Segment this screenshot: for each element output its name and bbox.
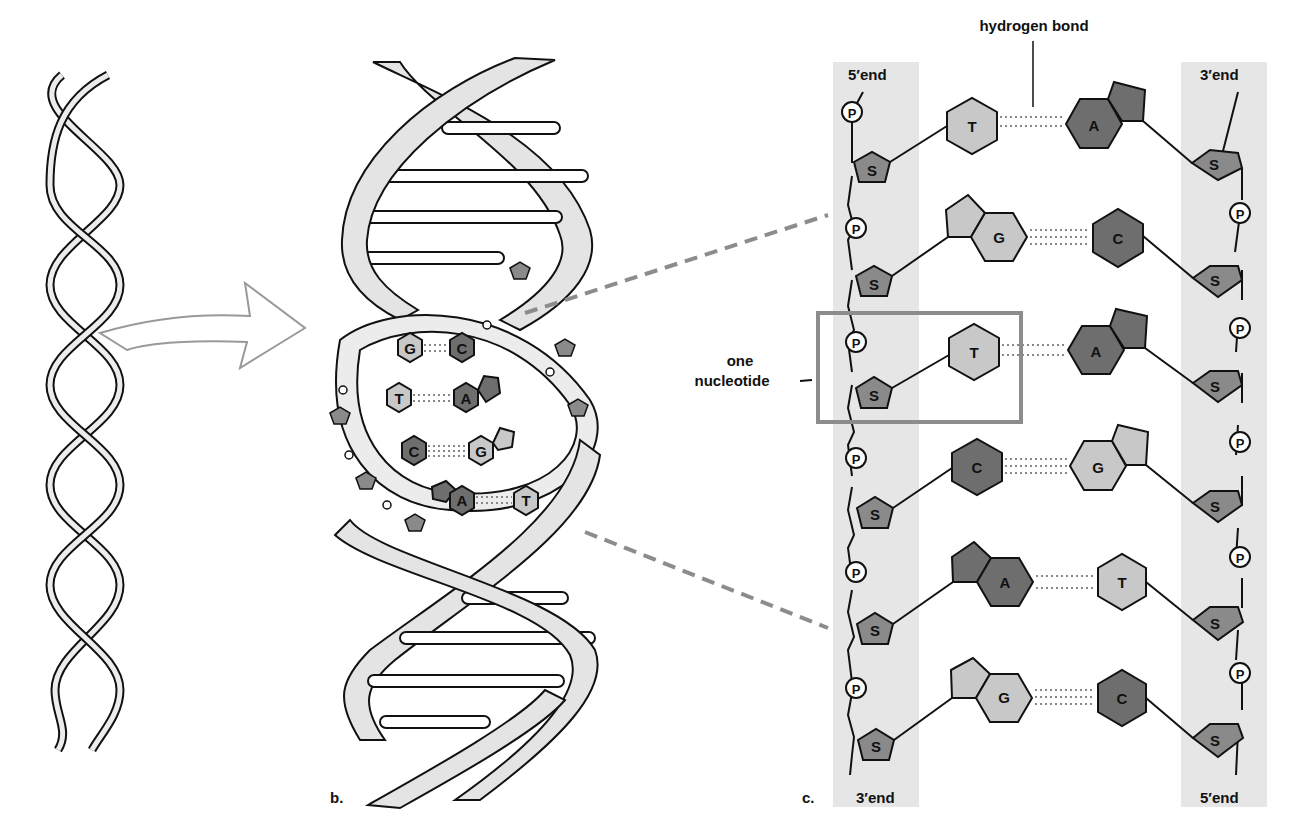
base-label: G bbox=[1092, 459, 1104, 476]
phosphate-group: P bbox=[842, 102, 862, 122]
svg-text:P: P bbox=[852, 682, 861, 697]
phosphate-group: P bbox=[846, 332, 866, 352]
sugar-label: S bbox=[1209, 156, 1219, 173]
phosphate-group: P bbox=[846, 562, 866, 582]
one-nucleotide-label-line1: one bbox=[727, 352, 754, 369]
base-label: C bbox=[409, 443, 420, 460]
svg-text:P: P bbox=[852, 566, 861, 581]
svg-text:P: P bbox=[852, 452, 861, 467]
svg-text:P: P bbox=[1236, 667, 1245, 682]
sugar-label: S bbox=[1210, 272, 1220, 289]
panel-c-ladder: 5′end 3′end 3′end 5′end c. hydrogen bond… bbox=[694, 17, 1267, 807]
sugar-label: S bbox=[871, 738, 881, 755]
base-label: C bbox=[972, 459, 983, 476]
svg-text:P: P bbox=[1236, 322, 1245, 337]
phosphate-group: P bbox=[1230, 203, 1250, 223]
base-label: G bbox=[475, 443, 487, 460]
sugar-label: S bbox=[869, 387, 879, 404]
right-top-end-label: 3′end bbox=[1200, 66, 1239, 83]
base-label: C bbox=[457, 340, 468, 357]
panel-a-double-helix bbox=[50, 75, 120, 750]
base-label: A bbox=[1089, 117, 1100, 134]
base-label: A bbox=[457, 492, 468, 509]
sugar-label: S bbox=[1210, 498, 1220, 515]
dna-structure-diagram: G C T A C G A T bbox=[0, 0, 1295, 828]
base-label: C bbox=[1113, 230, 1124, 247]
base-label: C bbox=[1117, 690, 1128, 707]
left-top-end-label: 5′end bbox=[848, 66, 887, 83]
base-label: A bbox=[461, 390, 472, 407]
base-label: T bbox=[521, 492, 530, 509]
base-label: T bbox=[394, 390, 403, 407]
magnify-arrow-icon bbox=[100, 283, 305, 368]
phosphate-group: P bbox=[1230, 318, 1250, 338]
svg-text:P: P bbox=[852, 222, 861, 237]
base-label: T bbox=[969, 344, 978, 361]
phosphate-group: P bbox=[1230, 432, 1250, 452]
sugar-label: S bbox=[1210, 615, 1220, 632]
phosphate-group: P bbox=[846, 678, 866, 698]
base-label: A bbox=[1000, 574, 1011, 591]
sugar-label: S bbox=[870, 622, 880, 639]
left-bottom-end-label: 3′end bbox=[856, 789, 895, 806]
panel-b-label: b. bbox=[330, 789, 343, 806]
right-bottom-end-label: 5′end bbox=[1200, 789, 1239, 806]
svg-text:P: P bbox=[852, 336, 861, 351]
phosphate-group: P bbox=[1230, 663, 1250, 683]
sugar-label: S bbox=[867, 162, 877, 179]
base-label: A bbox=[1091, 343, 1102, 360]
phosphate-group: P bbox=[1230, 547, 1250, 567]
sugar-label: S bbox=[1210, 378, 1220, 395]
svg-text:P: P bbox=[1236, 207, 1245, 222]
zoom-connector-bottom bbox=[585, 532, 828, 628]
one-nucleotide-label-line2: nucleotide bbox=[694, 372, 769, 389]
svg-text:P: P bbox=[1236, 436, 1245, 451]
hydrogen-bond-label: hydrogen bond bbox=[979, 17, 1088, 34]
sugar-label: S bbox=[869, 276, 879, 293]
panel-b-helix: G C T A C G A T bbox=[330, 58, 600, 808]
svg-text:P: P bbox=[848, 106, 857, 121]
base-label: T bbox=[1117, 574, 1126, 591]
base-label: G bbox=[993, 229, 1005, 246]
base-label: G bbox=[998, 689, 1010, 706]
sugar-label: S bbox=[870, 506, 880, 523]
phosphate-group: P bbox=[846, 218, 866, 238]
base-label: T bbox=[967, 118, 976, 135]
phosphate-group: P bbox=[846, 448, 866, 468]
sugar-label: S bbox=[1210, 732, 1220, 749]
base-label: G bbox=[404, 340, 416, 357]
svg-text:P: P bbox=[1236, 551, 1245, 566]
panel-c-label: c. bbox=[802, 789, 815, 806]
